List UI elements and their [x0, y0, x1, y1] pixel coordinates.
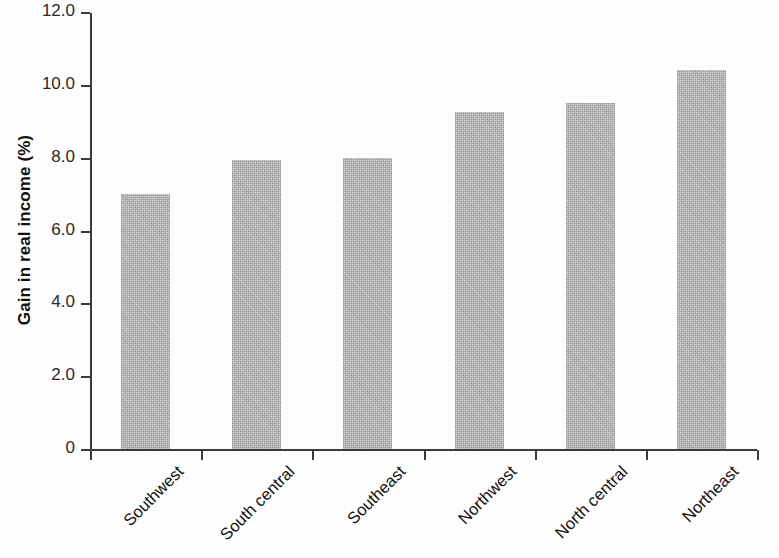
- bar: [677, 70, 726, 449]
- bar: [121, 194, 170, 449]
- y-tick-label: 10.0: [42, 73, 75, 95]
- y-tick-label: 4.0: [51, 291, 75, 313]
- y-tick: 6.0: [81, 231, 90, 233]
- y-tick-label: 0: [66, 437, 75, 459]
- x-tick: [424, 450, 426, 460]
- bar: [566, 103, 615, 449]
- y-axis-title: Gain in real income (%): [10, 0, 40, 460]
- y-axis-line: [90, 13, 92, 450]
- bar: [455, 112, 504, 449]
- y-tick-label: 12.0: [42, 0, 75, 22]
- x-tick: [90, 450, 92, 460]
- y-tick: 12.0: [81, 12, 90, 14]
- bar: [343, 158, 392, 449]
- x-axis-label: Southwest: [115, 462, 188, 535]
- y-tick: 4.0: [81, 303, 90, 305]
- y-tick: 0: [81, 449, 90, 451]
- y-tick: 2.0: [81, 376, 90, 378]
- x-tick: [312, 450, 314, 460]
- x-axis-labels: SouthwestSouth centralSoutheastNorthwest…: [90, 462, 757, 558]
- plot-area: 12.010.08.06.04.02.00: [90, 13, 757, 450]
- y-tick-label: 6.0: [51, 219, 75, 241]
- x-tick: [535, 450, 537, 460]
- bar: [232, 160, 281, 450]
- x-tick: [646, 450, 648, 460]
- x-tick: [757, 450, 759, 460]
- y-tick-label: 2.0: [51, 364, 75, 386]
- bar-chart: Gain in real income (%) 12.010.08.06.04.…: [0, 0, 779, 558]
- x-tick: [201, 450, 203, 460]
- y-tick: 8.0: [81, 158, 90, 160]
- y-tick: 10.0: [81, 85, 90, 87]
- y-tick-label: 8.0: [51, 146, 75, 168]
